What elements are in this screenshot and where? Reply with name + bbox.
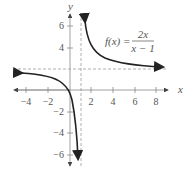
- function-graph: −4 −2 2 4 6 8 6 4 −2 −4 −6 x y f(x) = 2x…: [0, 0, 196, 171]
- svg-text:4: 4: [111, 96, 116, 107]
- y-axis-label: y: [67, 0, 73, 12]
- svg-text:−4: −4: [53, 127, 64, 138]
- svg-text:−2: −2: [43, 96, 54, 107]
- svg-text:2x: 2x: [138, 28, 149, 40]
- svg-text:x − 1: x − 1: [130, 42, 154, 54]
- svg-text:−4: −4: [21, 96, 32, 107]
- svg-text:f(x) =: f(x) =: [105, 35, 130, 48]
- svg-text:8: 8: [154, 96, 159, 107]
- svg-text:−6: −6: [53, 149, 64, 160]
- svg-text:−2: −2: [53, 106, 64, 117]
- x-tick-labels: −4 −2 2 4 6 8: [21, 96, 159, 107]
- left-branch-curve: [21, 73, 78, 158]
- svg-text:2: 2: [89, 96, 94, 107]
- svg-text:6: 6: [133, 96, 138, 107]
- svg-text:4: 4: [59, 42, 64, 53]
- x-axis-label: x: [177, 83, 183, 95]
- svg-text:6: 6: [59, 20, 64, 31]
- function-label: f(x) = 2x x − 1: [105, 28, 155, 54]
